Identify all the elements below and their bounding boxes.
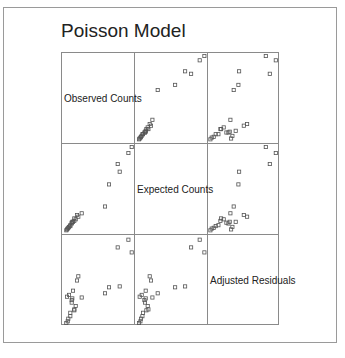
data-point xyxy=(246,215,249,218)
data-point xyxy=(229,118,232,121)
data-point xyxy=(238,170,241,173)
data-point xyxy=(156,88,159,91)
data-point xyxy=(174,83,177,86)
data-point xyxy=(130,145,133,148)
data-point xyxy=(144,289,147,292)
data-point xyxy=(229,212,232,215)
data-point xyxy=(149,279,152,282)
data-point xyxy=(234,220,237,223)
data-point xyxy=(151,118,154,121)
data-point xyxy=(190,72,193,75)
data-point xyxy=(151,296,154,299)
data-point xyxy=(69,311,72,314)
data-point xyxy=(80,296,83,299)
data-point xyxy=(238,70,241,73)
data-point xyxy=(225,131,228,134)
data-point xyxy=(268,162,271,165)
data-point xyxy=(73,309,76,312)
data-point xyxy=(127,151,130,154)
data-point xyxy=(237,183,240,186)
data-point xyxy=(74,304,77,307)
data-point xyxy=(237,83,240,86)
data-point xyxy=(75,279,78,282)
data-point xyxy=(107,286,110,289)
data-point xyxy=(118,170,121,173)
data-point xyxy=(103,205,106,208)
data-point xyxy=(203,54,206,57)
chart-title: Poisson Model xyxy=(61,20,186,42)
data-point xyxy=(242,213,245,216)
data-point xyxy=(71,289,74,292)
data-point xyxy=(146,304,149,307)
data-point xyxy=(103,292,106,295)
data-point xyxy=(242,124,245,127)
data-point xyxy=(174,286,177,289)
data-point xyxy=(198,238,201,241)
data-point xyxy=(264,145,267,148)
data-point xyxy=(145,309,148,312)
data-point xyxy=(274,59,277,62)
data-point xyxy=(232,205,235,208)
data-point xyxy=(77,275,80,278)
data-point xyxy=(184,70,187,73)
data-point xyxy=(73,308,76,311)
scatterplot-matrix: Observed Counts Expected Counts Adjusted… xyxy=(61,52,279,325)
data-point xyxy=(264,54,267,57)
data-point xyxy=(184,285,187,288)
data-point xyxy=(234,129,237,132)
data-point xyxy=(80,212,83,215)
data-point xyxy=(198,59,201,62)
scatter-points xyxy=(62,53,280,326)
data-point xyxy=(268,72,271,75)
data-point xyxy=(203,251,206,254)
data-point xyxy=(116,162,119,165)
data-point xyxy=(190,246,193,249)
data-point xyxy=(118,285,121,288)
data-point xyxy=(141,311,144,314)
data-point xyxy=(246,122,249,125)
data-point xyxy=(148,275,151,278)
data-point xyxy=(116,246,119,249)
data-point xyxy=(156,292,159,295)
data-point xyxy=(232,88,235,91)
data-point xyxy=(130,251,133,254)
data-point xyxy=(274,151,277,154)
data-point xyxy=(127,238,130,241)
data-point xyxy=(107,183,110,186)
